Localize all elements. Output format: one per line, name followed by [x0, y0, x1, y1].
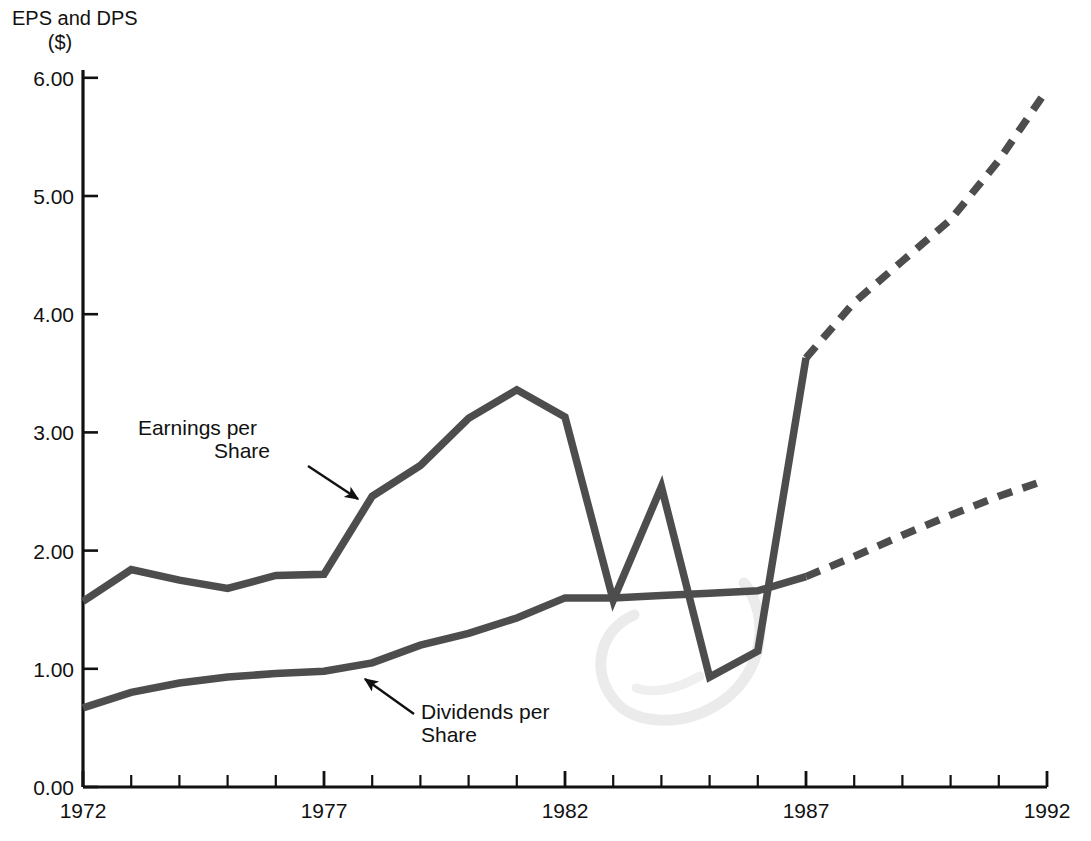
chart-page: 0.001.002.003.004.005.006.00 19721977198… [0, 0, 1091, 841]
y-tick-label: 1.00 [33, 658, 74, 681]
eps-annotation-line2: Share [214, 439, 270, 462]
y-tick-label: 5.00 [33, 185, 74, 208]
y-tick-label: 3.00 [33, 421, 74, 444]
y-axis-title-line2: ($) [48, 31, 72, 53]
y-tick-label: 6.00 [33, 67, 74, 90]
series-dps [83, 480, 1047, 708]
y-tick-label: 2.00 [33, 540, 74, 563]
dps-annotation: Dividends perShare [365, 679, 549, 746]
dps-annotation-arrow-icon [365, 679, 414, 714]
x-tick-label: 1987 [783, 799, 830, 822]
x-tick-label: 1977 [301, 799, 348, 822]
dps-annotation-line2: Share [421, 723, 477, 746]
y-axis-title-line1: EPS and DPS [12, 7, 138, 29]
y-tick-label: 4.00 [33, 303, 74, 326]
eps-annotation: Earnings perShare [138, 416, 358, 499]
dps-annotation-line1: Dividends per [421, 700, 549, 723]
eps-annotation-line1: Earnings per [138, 416, 257, 439]
series-line-forecast [806, 480, 1047, 577]
series-layer [83, 90, 1047, 708]
eps-dps-line-chart: 0.001.002.003.004.005.006.00 19721977198… [0, 0, 1091, 841]
y-tick-label: 0.00 [33, 776, 74, 799]
x-axis-tick-labels: 19721977198219871992 [60, 799, 1071, 822]
scan-artifact-swirl [601, 583, 760, 720]
eps-annotation-arrow-icon [308, 466, 358, 499]
y-axis-ticks [83, 78, 98, 787]
x-tick-label: 1982 [542, 799, 589, 822]
series-line-actual [83, 358, 806, 677]
y-axis-tick-labels: 0.001.002.003.004.005.006.00 [33, 67, 74, 799]
x-tick-label: 1972 [60, 799, 107, 822]
series-line-forecast [806, 90, 1047, 358]
x-tick-label: 1992 [1024, 799, 1071, 822]
series-eps [83, 90, 1047, 677]
x-axis-ticks [83, 771, 1047, 787]
